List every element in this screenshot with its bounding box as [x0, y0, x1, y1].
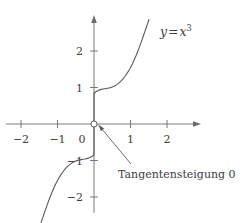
- x-tick-label-neg2: −2: [13, 134, 29, 145]
- y-tick-label-neg1: −1: [62, 155, 83, 166]
- equation-operator: =: [167, 24, 179, 39]
- origin-point-marker: [91, 121, 97, 127]
- tangent-slope-annotation-label: Tangentensteigung 0: [118, 169, 236, 180]
- cubic-function-figure: −2 −1 0 1 2 2 1 −1 −2 y=x3 Tangentenstei…: [0, 0, 240, 223]
- x-tick-label-neg1: −1: [49, 134, 65, 145]
- y-tick-label-neg2: −2: [62, 192, 83, 203]
- x-axis: [6, 121, 201, 127]
- equation-exponent: 3: [187, 23, 192, 33]
- x-tick-label-zero: 0: [79, 134, 86, 145]
- y-axis-arrowhead: [91, 15, 97, 23]
- plot-canvas: [0, 0, 240, 223]
- equation-base: x: [180, 24, 187, 39]
- curve-equation-label: y=x3: [160, 26, 192, 39]
- y-tick-label-pos1: 1: [68, 82, 83, 93]
- x-tick-label-pos1: 1: [127, 134, 134, 145]
- equation-lhs: y: [160, 24, 167, 39]
- x-axis-arrowhead: [193, 121, 201, 127]
- x-tick-label-pos2: 2: [164, 134, 171, 145]
- y-tick-label-pos2: 2: [68, 46, 83, 57]
